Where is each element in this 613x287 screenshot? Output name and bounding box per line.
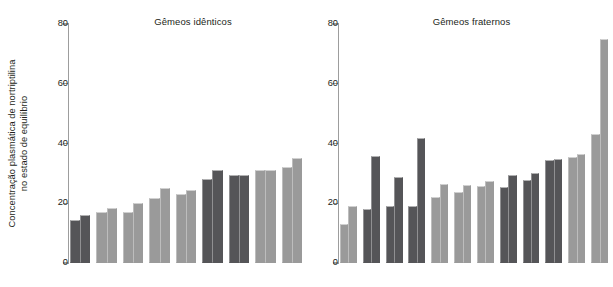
bar-twin-b	[371, 156, 379, 263]
bar-twin-a	[70, 220, 80, 263]
bar-twin-a	[176, 194, 186, 263]
bar-pair	[477, 24, 494, 263]
bar-twin-a	[500, 187, 508, 263]
y-axis-label-line1: Concentração plasmática de nortriptilina	[6, 60, 18, 228]
bar-twin-a	[431, 197, 439, 263]
y-tick-label: 40	[46, 138, 68, 148]
bar-pair	[500, 24, 517, 263]
bar-pair	[202, 24, 222, 263]
bar-twin-b	[80, 215, 90, 263]
bar-pair	[363, 24, 380, 263]
bar-twin-a	[255, 170, 265, 263]
bar-twin-b	[531, 173, 539, 263]
y-tick-label: 20	[46, 197, 68, 207]
bar-pair	[340, 24, 357, 263]
bar-pair	[255, 24, 275, 263]
bar-twin-b	[107, 208, 117, 263]
bar-twin-b	[265, 170, 275, 263]
y-tick-label: 80	[46, 18, 68, 28]
bar-twin-a	[340, 224, 348, 263]
bar-pair	[408, 24, 425, 263]
bar-twin-b	[577, 154, 585, 263]
y-tick-label: 80	[316, 18, 338, 28]
bar-twin-a	[454, 192, 462, 263]
y-tick-label: 0	[316, 257, 338, 267]
bar-twin-a	[149, 198, 159, 263]
y-axis-label: Concentração plasmática de nortriptilina…	[0, 0, 36, 287]
bar-twin-b	[600, 39, 608, 263]
bar-twin-b	[463, 185, 471, 263]
bar-twin-b	[485, 181, 493, 263]
bar-twin-a	[282, 167, 292, 263]
bar-pair	[282, 24, 302, 263]
bar-twin-a	[545, 160, 553, 263]
bar-twin-b	[160, 188, 170, 263]
bar-pair	[454, 24, 471, 263]
bar-twin-b	[554, 159, 562, 263]
bar-twin-b	[239, 175, 249, 263]
bar-pair	[70, 24, 90, 263]
bar-twin-a	[363, 209, 371, 263]
bar-twin-a	[568, 157, 576, 263]
bar-twin-b	[292, 158, 302, 263]
panel-fraternal-twins: Gêmeos fraternos 020406080	[310, 0, 613, 287]
y-tick-label: 60	[316, 78, 338, 88]
bar-twin-a	[386, 206, 394, 263]
bar-twin-a	[96, 212, 106, 263]
plot-area-identical	[70, 24, 302, 263]
bar-twin-b	[394, 177, 402, 263]
bar-twin-a	[591, 134, 599, 263]
bar-pair	[591, 24, 608, 263]
bar-pair	[568, 24, 585, 263]
bar-pair	[523, 24, 540, 263]
bar-pair	[545, 24, 562, 263]
bar-twin-b	[212, 170, 222, 263]
bar-twin-b	[133, 203, 143, 263]
bar-twin-a	[123, 212, 133, 263]
bar-twin-a	[477, 186, 485, 263]
y-tick-label: 0	[46, 257, 68, 267]
bar-twin-b	[440, 184, 448, 263]
bar-twin-a	[202, 179, 212, 263]
twin-nortriptyline-figure: Concentração plasmática de nortriptilina…	[0, 0, 613, 287]
y-tick-label: 40	[316, 138, 338, 148]
y-axis-label-line2: no estado de equilíbrio	[18, 60, 30, 228]
bar-twin-a	[229, 175, 239, 263]
y-tick-label: 60	[46, 78, 68, 88]
bar-twin-b	[348, 206, 356, 263]
bar-pair	[386, 24, 403, 263]
bar-pair	[149, 24, 169, 263]
bar-twin-a	[523, 180, 531, 263]
bar-pair	[96, 24, 116, 263]
bar-twin-b	[417, 138, 425, 263]
bar-twin-b	[508, 175, 516, 263]
bar-pair	[229, 24, 249, 263]
bar-twin-a	[408, 206, 416, 263]
panel-identical-twins: Gêmeos idênticos 020406080	[40, 0, 310, 287]
plot-area-fraternal	[340, 24, 608, 263]
bar-pair	[176, 24, 196, 263]
bar-pair	[431, 24, 448, 263]
bar-twin-b	[186, 190, 196, 263]
y-tick-label: 20	[316, 197, 338, 207]
bar-pair	[123, 24, 143, 263]
